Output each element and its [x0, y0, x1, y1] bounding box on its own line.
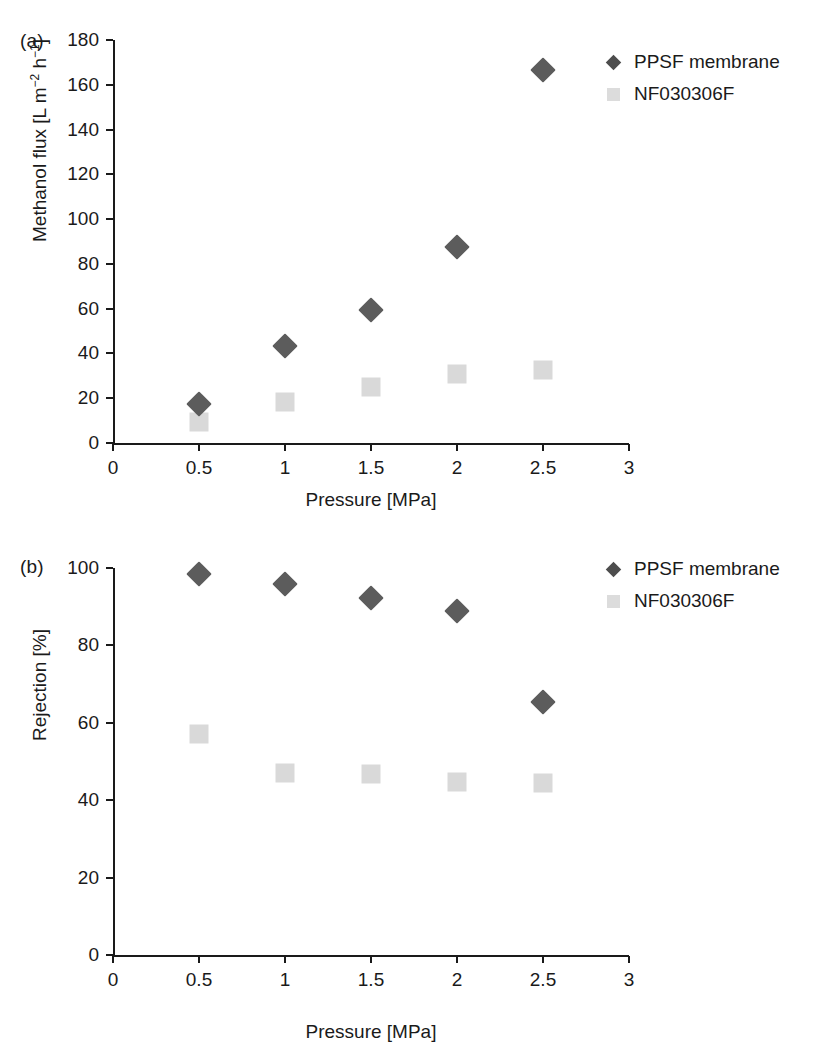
panel-b-x-axis-title: Pressure [MPa] [306, 1021, 437, 1043]
x-axis-tick-label: 2 [452, 457, 463, 479]
x-axis-tick-label: 1.5 [358, 457, 384, 479]
x-axis-tick-label: 3 [624, 969, 635, 991]
y-axis-title-text: Methanol flux [L m−2 h−1] [29, 39, 50, 242]
data-point-diamond [358, 297, 383, 322]
data-point-diamond [444, 598, 469, 623]
x-axis-tick [456, 444, 458, 451]
y-axis-line [113, 40, 115, 443]
x-axis-tick-label: 0 [108, 969, 119, 991]
y-axis-tick [106, 397, 113, 399]
x-axis-tick-label: 0.5 [186, 969, 212, 991]
y-axis-tick [106, 39, 113, 41]
data-point-diamond [272, 572, 297, 597]
y-axis-tick [106, 352, 113, 354]
panel-a-legend: PPSF membrane NF030306F [600, 46, 780, 110]
data-point-diamond [530, 57, 555, 82]
x-axis-tick-label: 1 [280, 457, 291, 479]
y-axis-tick-label: 100 [23, 557, 99, 579]
y-axis-tick-label: 20 [23, 387, 99, 409]
data-point-square [190, 724, 209, 743]
y-axis-tick [106, 722, 113, 724]
legend-item-nf[interactable]: NF030306F [600, 78, 780, 110]
y-axis-tick-label: 0 [23, 432, 99, 454]
x-axis-tick [284, 956, 286, 963]
x-axis-tick-label: 0 [108, 457, 119, 479]
x-axis-tick [198, 956, 200, 963]
legend-label-nf: NF030306F [626, 83, 734, 105]
x-axis-tick [284, 444, 286, 451]
y-axis-tick [106, 308, 113, 310]
y-axis-tick-label: 20 [23, 867, 99, 889]
panel-a: (a) 02040608010012014016018000.511.522.5… [0, 0, 825, 520]
x-axis-tick-label: 2.5 [530, 969, 556, 991]
legend-item-ppsf[interactable]: PPSF membrane [600, 553, 780, 585]
y-axis-tick [106, 129, 113, 131]
y-axis-tick-label: 60 [23, 298, 99, 320]
data-point-square [448, 772, 467, 791]
x-axis-tick-label: 1 [280, 969, 291, 991]
y-axis-tick [106, 567, 113, 569]
data-point-diamond [530, 689, 555, 714]
x-axis-tick [628, 956, 630, 963]
data-point-diamond [358, 585, 383, 610]
diamond-marker-icon [600, 57, 626, 68]
x-axis-tick [456, 956, 458, 963]
data-point-diamond [444, 234, 469, 259]
square-marker-icon [600, 595, 626, 608]
x-axis-tick-label: 1.5 [358, 969, 384, 991]
square-marker-icon [600, 88, 626, 101]
data-point-square [448, 364, 467, 383]
x-axis-tick-label: 0.5 [186, 457, 212, 479]
x-axis-tick [628, 444, 630, 451]
diamond-marker-icon [600, 564, 626, 575]
x-axis-tick [112, 444, 114, 451]
x-axis-tick [370, 444, 372, 451]
data-point-square [276, 392, 295, 411]
legend-label-nf: NF030306F [626, 590, 734, 612]
x-axis-tick [198, 444, 200, 451]
data-point-square [362, 378, 381, 397]
data-point-square [362, 765, 381, 784]
y-axis-tick-label: 0 [23, 944, 99, 966]
x-axis-tick-label: 3 [624, 457, 635, 479]
legend-item-nf[interactable]: NF030306F [600, 585, 780, 617]
x-axis-tick [370, 956, 372, 963]
y-axis-tick [106, 877, 113, 879]
panel-a-x-axis-title: Pressure [MPa] [306, 489, 437, 511]
y-axis-tick [106, 218, 113, 220]
y-axis-tick [106, 799, 113, 801]
y-axis-tick [106, 263, 113, 265]
legend-label-ppsf: PPSF membrane [626, 558, 780, 580]
y-axis-line [113, 568, 115, 955]
figure-root: (a) 02040608010012014016018000.511.522.5… [0, 0, 825, 1051]
data-point-square [534, 361, 553, 380]
data-point-square [534, 773, 553, 792]
x-axis-tick-label: 2.5 [530, 457, 556, 479]
legend-item-ppsf[interactable]: PPSF membrane [600, 46, 780, 78]
data-point-diamond [186, 561, 211, 586]
data-point-square [276, 764, 295, 783]
x-axis-tick [542, 956, 544, 963]
y-axis-tick [106, 84, 113, 86]
y-axis-tick-label: 40 [23, 342, 99, 364]
y-axis-tick-label: 80 [23, 253, 99, 275]
x-axis-tick [112, 956, 114, 963]
panel-b-legend: PPSF membrane NF030306F [600, 553, 780, 617]
panel-b: (b) 02040608010000.511.522.53 Rejection … [0, 528, 825, 1051]
y-axis-tick-label: 40 [23, 789, 99, 811]
x-axis-tick [542, 444, 544, 451]
legend-label-ppsf: PPSF membrane [626, 51, 780, 73]
y-axis-tick [106, 173, 113, 175]
y-axis-tick [106, 644, 113, 646]
data-point-diamond [272, 333, 297, 358]
x-axis-tick-label: 2 [452, 969, 463, 991]
